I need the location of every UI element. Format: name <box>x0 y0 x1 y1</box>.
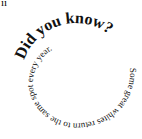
body-text: Some great whites return to the same spo… <box>25 43 138 131</box>
heading-did-you-know: Did you know? <box>11 9 117 61</box>
heading-text: Did you know? <box>11 9 117 61</box>
spiral-body-text: Some great whites return to the same spo… <box>25 43 138 131</box>
spiral-text-graphic: Did you know? Some great whites return t… <box>0 0 142 139</box>
